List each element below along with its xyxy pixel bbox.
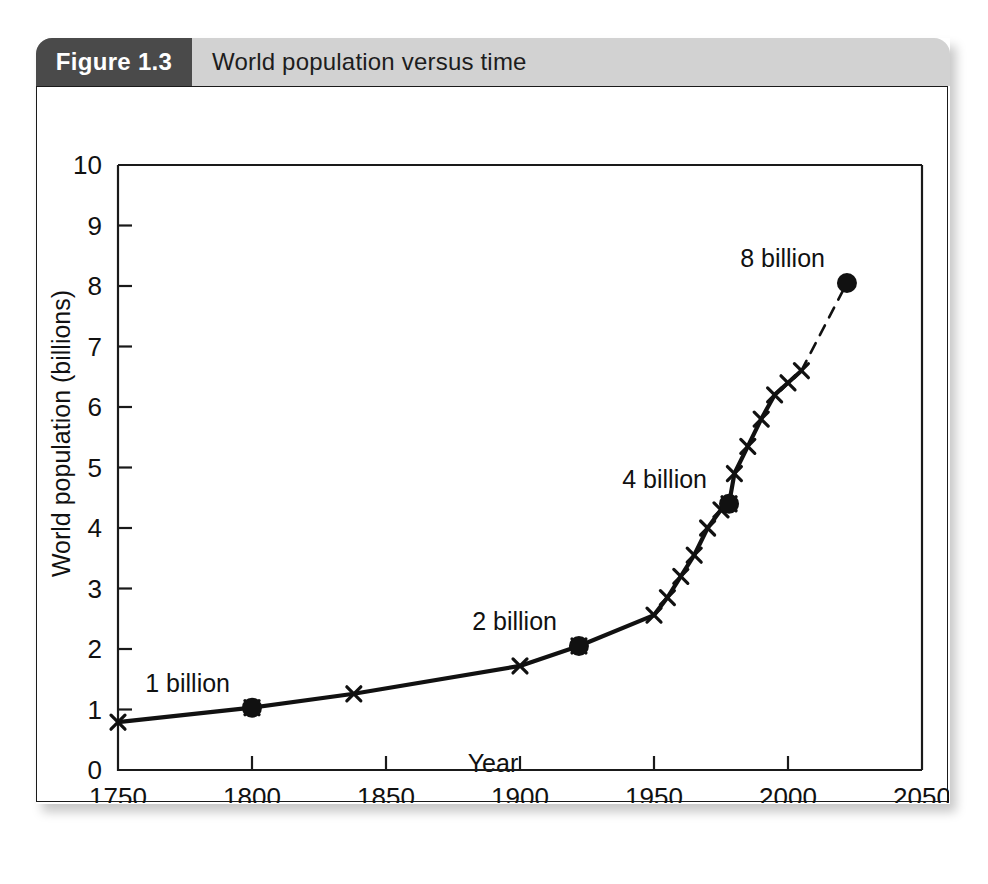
y-tick-label: 0 xyxy=(88,755,102,785)
y-tick-label: 1 xyxy=(88,695,102,725)
figure-card: Figure 1.3 World population versus time … xyxy=(36,38,950,804)
x-tick-label: 1850 xyxy=(357,782,415,803)
x-tick-label: 1800 xyxy=(223,782,281,803)
highlight-label: 8 billion xyxy=(740,244,825,272)
highlight-label: 2 billion xyxy=(472,607,557,635)
y-tick-label: 8 xyxy=(88,271,102,301)
x-tick-label: 1900 xyxy=(491,782,549,803)
y-tick-label: 4 xyxy=(88,513,102,543)
x-tick-label: 2000 xyxy=(759,782,817,803)
y-tick-label: 6 xyxy=(88,392,102,422)
highlight-label: 1 billion xyxy=(145,669,230,697)
y-tick-label: 7 xyxy=(88,332,102,362)
y-tick-label: 9 xyxy=(88,211,102,241)
annotation-group: 1 billion2 billion4 billion8 billion xyxy=(145,244,857,718)
y-tick-label: 5 xyxy=(88,453,102,483)
figure-header: Figure 1.3 World population versus time xyxy=(36,38,950,86)
data-point-x-marker xyxy=(687,548,701,562)
data-point-x-marker xyxy=(741,439,755,453)
highlight-point xyxy=(242,698,262,718)
plot-frame: World population (billions) Year 0123456… xyxy=(36,86,948,802)
x-tick-group: 1750180018501900195020002050 xyxy=(89,756,949,803)
population-line-chart: 012345678910 175018001850190019502000205… xyxy=(37,87,949,803)
highlight-label: 4 billion xyxy=(622,465,707,493)
figure-title: World population versus time xyxy=(212,38,527,86)
figure-number-tab: Figure 1.3 xyxy=(36,38,192,86)
y-tick-label: 10 xyxy=(73,150,102,180)
highlight-point xyxy=(719,494,739,514)
highlight-point xyxy=(837,273,857,293)
y-tick-label: 3 xyxy=(88,574,102,604)
x-tick-label: 1750 xyxy=(89,782,147,803)
data-point-x-marker xyxy=(674,569,688,583)
data-point-x-marker xyxy=(754,412,768,426)
y-tick-label: 2 xyxy=(88,634,102,664)
y-tick-group: 012345678910 xyxy=(73,150,132,785)
data-point-x-marker xyxy=(701,521,715,535)
x-tick-label: 1950 xyxy=(625,782,683,803)
data-point-x-marker xyxy=(660,591,674,605)
x-tick-label: 2050 xyxy=(893,782,949,803)
series-line xyxy=(801,283,847,371)
highlight-point xyxy=(569,636,589,656)
